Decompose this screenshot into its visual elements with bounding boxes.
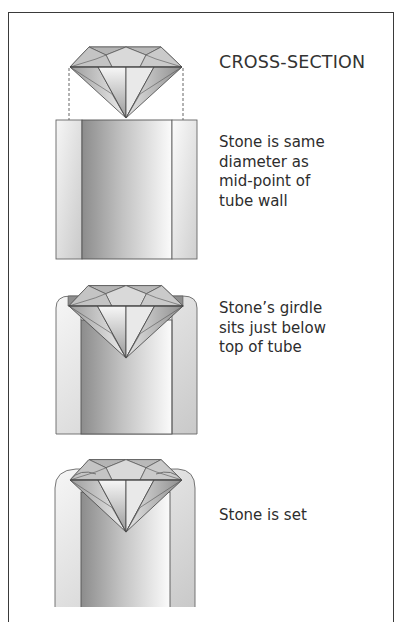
caption-line: Stone is same <box>219 133 325 153</box>
figure-title: CROSS-SECTION <box>219 52 365 72</box>
stage-2-diagram <box>56 286 197 434</box>
caption-line: tube wall <box>219 192 325 212</box>
stage-1-diagram <box>56 47 197 259</box>
caption-line: diameter as <box>219 153 325 173</box>
caption-line: mid-point of <box>219 172 325 192</box>
stage-3-diagram <box>55 460 195 607</box>
caption-line: Stone’s girdle <box>219 299 326 319</box>
caption-stage-2: Stone’s girdle sits just below top of tu… <box>219 299 326 358</box>
caption-line: sits just below <box>219 319 326 339</box>
caption-stage-1: Stone is same diameter as mid-point of t… <box>219 133 325 211</box>
caption-line: top of tube <box>219 338 326 358</box>
caption-line: Stone is set <box>219 506 307 526</box>
caption-stage-3: Stone is set <box>219 506 307 526</box>
